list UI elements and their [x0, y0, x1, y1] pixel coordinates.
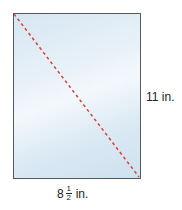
height-label: 11 in. [146, 90, 174, 104]
width-whole: 8 [57, 187, 64, 201]
fraction-denominator: 2 [66, 194, 70, 202]
fraction-numerator: 1 [66, 185, 70, 193]
width-fraction: 1 2 [66, 185, 72, 202]
width-label: 8 1 2 in. [57, 185, 88, 202]
diagonal-line [0, 0, 182, 210]
width-unit: in. [76, 187, 89, 201]
